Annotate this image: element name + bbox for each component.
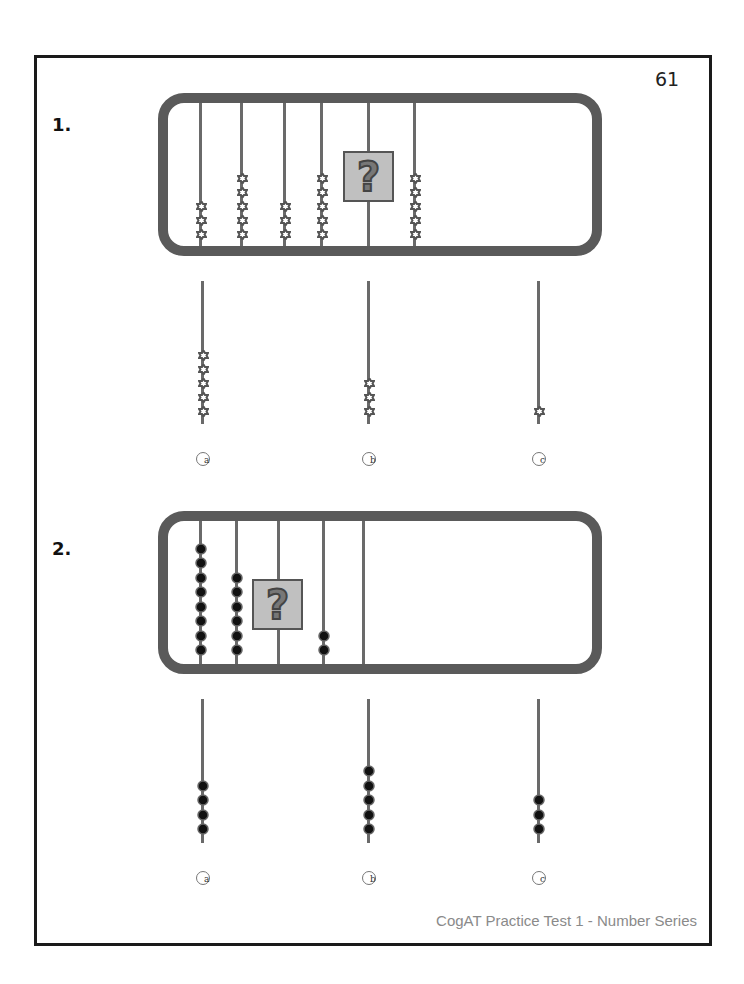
choice-letter: c	[540, 874, 545, 884]
answer-bubble-a[interactable]: a	[196, 871, 210, 885]
star-bead-icon	[198, 347, 209, 365]
question-box: ?	[252, 579, 303, 630]
dot-bead-icon	[363, 763, 375, 781]
star-bead-icon	[280, 198, 291, 216]
footer-title: CogAT Practice Test 1 - Number Series	[436, 912, 697, 929]
answer-bubble-c[interactable]: c	[532, 452, 546, 466]
star-bead-icon	[237, 170, 248, 188]
dot-bead-icon	[197, 778, 209, 796]
dot-bead-icon	[195, 541, 207, 559]
answer-bubble-b[interactable]: b	[362, 871, 376, 885]
abacus-rod	[362, 521, 365, 664]
page-number: 61	[655, 68, 679, 90]
choice-letter: b	[370, 874, 376, 884]
choice-letter: b	[370, 455, 376, 465]
abacus-frame	[158, 511, 602, 674]
choice-letter: c	[540, 455, 545, 465]
choice-letter: a	[204, 455, 209, 465]
star-bead-icon	[410, 170, 421, 188]
star-bead-icon	[317, 170, 328, 188]
dot-bead-icon	[533, 792, 545, 810]
question-1-number: 1.	[52, 114, 71, 135]
question-mark-icon: ?	[357, 157, 380, 197]
star-bead-icon	[534, 403, 545, 421]
question-2-number: 2.	[52, 538, 71, 559]
dot-bead-icon	[318, 628, 330, 646]
answer-bubble-a[interactable]: a	[196, 452, 210, 466]
dot-bead-icon	[231, 570, 243, 588]
star-bead-icon	[364, 375, 375, 393]
answer-bubble-b[interactable]: b	[362, 452, 376, 466]
question-mark-icon: ?	[266, 585, 289, 625]
answer-bubble-c[interactable]: c	[532, 871, 546, 885]
star-bead-icon	[196, 198, 207, 216]
question-box: ?	[343, 151, 394, 202]
choice-letter: a	[204, 874, 209, 884]
